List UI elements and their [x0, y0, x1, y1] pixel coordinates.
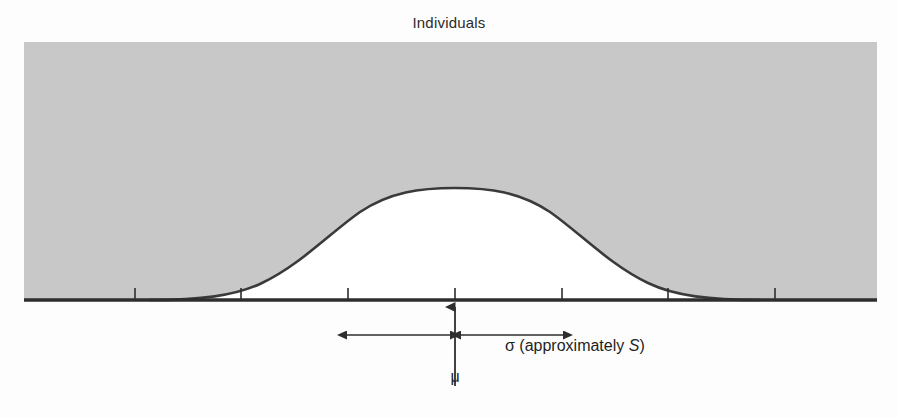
statistics-figure: Individuals: [0, 0, 898, 418]
mu-annotation-label: μ: [440, 368, 470, 386]
distribution-diagram: [0, 0, 898, 418]
sigma-annotation-prefix: σ (approximately: [505, 337, 629, 354]
sigma-annotation-label: σ (approximately S): [505, 337, 645, 355]
sigma-annotation-symbol: S: [629, 337, 640, 354]
sigma-annotation-suffix: ): [639, 337, 644, 354]
